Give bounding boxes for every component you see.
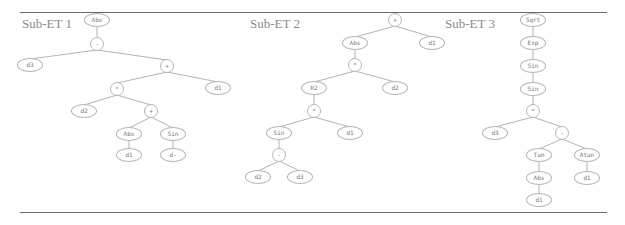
tree-node: d1 bbox=[526, 193, 552, 207]
tree-edge bbox=[495, 117, 533, 127]
tree-edge bbox=[84, 95, 117, 105]
tree-node: + bbox=[160, 59, 174, 73]
tree-node: Abs bbox=[116, 127, 142, 141]
tree-node: Sin bbox=[266, 126, 292, 140]
tree-node: R2 bbox=[301, 81, 327, 95]
tree-node: * bbox=[307, 104, 321, 118]
tree-node: d- bbox=[160, 148, 186, 162]
tree-node: + bbox=[144, 104, 158, 118]
tree-node: d3 bbox=[287, 170, 313, 184]
tree-edge bbox=[314, 71, 355, 82]
tree-node: - bbox=[90, 37, 104, 51]
tree-node: Exp bbox=[520, 36, 546, 50]
tree-node: d1 bbox=[116, 148, 142, 162]
tree-node: * bbox=[526, 104, 540, 118]
tree-edge bbox=[117, 72, 167, 83]
tree-node: d1 bbox=[419, 36, 445, 50]
tree-edge bbox=[30, 50, 97, 59]
tree-node: Sin bbox=[520, 82, 546, 96]
tree-node: d3 bbox=[482, 126, 508, 140]
tree-node: d1 bbox=[574, 171, 600, 185]
tree-edge bbox=[355, 26, 395, 37]
tree-node: d2 bbox=[71, 104, 97, 118]
tree-node: d1 bbox=[337, 126, 363, 140]
tree-node: Abs bbox=[526, 171, 552, 185]
tree-node: * bbox=[348, 58, 362, 72]
tree-node: d3 bbox=[17, 58, 43, 72]
tree-edge bbox=[395, 26, 432, 37]
expression-tree-figure: Sub-ET 1 Sub-ET 2 Sub-ET 3 Abs-d3+*d1d2+… bbox=[0, 0, 625, 225]
tree-node: Atan bbox=[574, 148, 600, 162]
tree-node: Sin bbox=[160, 127, 186, 141]
tree-node: + bbox=[388, 13, 402, 27]
tree-node: d2 bbox=[382, 81, 408, 95]
tree-edge bbox=[533, 117, 562, 127]
tree-edge bbox=[355, 71, 395, 82]
tree-node: Abs bbox=[342, 36, 368, 50]
tree-node: d1 bbox=[205, 81, 231, 95]
tree-node: - bbox=[555, 126, 569, 140]
tree-edge bbox=[117, 95, 151, 105]
tree-node: d2 bbox=[245, 170, 271, 184]
tree-node: Tan bbox=[526, 148, 552, 162]
tree-node: Sqrt bbox=[520, 13, 546, 27]
tree-node: Sin bbox=[520, 59, 546, 73]
tree-node: Abs bbox=[84, 13, 110, 27]
tree-node: * bbox=[110, 82, 124, 96]
tree-edge bbox=[167, 72, 218, 82]
tree-edge bbox=[97, 50, 167, 60]
tree-node: - bbox=[272, 148, 286, 162]
tree-edge bbox=[279, 117, 314, 127]
